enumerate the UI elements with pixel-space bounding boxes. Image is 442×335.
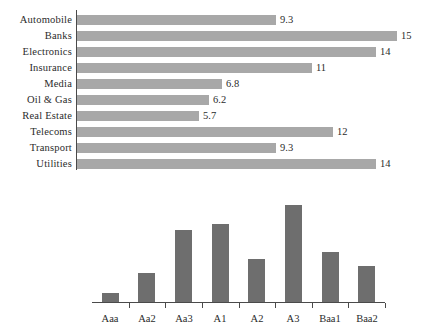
horizontal-bar-category-label: Oil & Gas (0, 92, 72, 108)
horizontal-bar-category-label: Banks (0, 28, 72, 44)
horizontal-bar-value-label: 5.7 (203, 108, 216, 124)
horizontal-bar-row: Insurance11 (0, 60, 442, 76)
horizontal-bar-value-label: 11 (316, 60, 326, 76)
horizontal-bar-row: Utilities14 (0, 156, 442, 172)
vertical-bar-chart: AaaAa2Aa3A1A2A3Baa1Baa2 (0, 180, 442, 335)
vertical-bar (175, 230, 192, 302)
horizontal-bar-row: Real Estate5.7 (0, 108, 442, 124)
horizontal-bar (77, 95, 209, 105)
horizontal-bar-category-label: Electronics (0, 44, 72, 60)
horizontal-bar (77, 111, 199, 121)
vertical-bar-category-label: A1 (200, 311, 240, 327)
vertical-axis-tick (239, 303, 240, 308)
horizontal-bar-category-label: Real Estate (0, 108, 72, 124)
horizontal-bar-value-label: 14 (380, 44, 391, 60)
horizontal-bar-category-label: Utilities (0, 156, 72, 172)
vertical-bar (248, 259, 265, 302)
vertical-axis-tick (275, 303, 276, 308)
horizontal-bar (77, 159, 376, 169)
vertical-bar-category-label: A3 (273, 311, 313, 327)
horizontal-bar (77, 31, 397, 41)
vertical-axis-tick (165, 303, 166, 308)
horizontal-bar-value-label: 9.3 (280, 12, 293, 28)
vertical-axis-tick (202, 303, 203, 308)
horizontal-bar-row: Transport9.3 (0, 140, 442, 156)
horizontal-bar (77, 15, 276, 25)
vertical-bar (285, 205, 302, 302)
horizontal-bar-category-label: Transport (0, 140, 72, 156)
horizontal-bar-value-label: 15 (401, 28, 412, 44)
vertical-axis-tick (385, 303, 386, 308)
horizontal-bar-row: Automobile9.3 (0, 12, 442, 28)
horizontal-bar (77, 143, 276, 153)
horizontal-bar-value-label: 6.8 (226, 76, 239, 92)
horizontal-bar-row: Electronics14 (0, 44, 442, 60)
horizontal-bar-category-label: Telecoms (0, 124, 72, 140)
horizontal-bar-row: Banks15 (0, 28, 442, 44)
horizontal-bar-chart: Automobile9.3Banks15Electronics14Insuran… (0, 0, 442, 180)
vertical-bar (102, 293, 119, 302)
horizontal-bar-row: Oil & Gas6.2 (0, 92, 442, 108)
horizontal-bar (77, 79, 222, 89)
horizontal-bar-category-label: Insurance (0, 60, 72, 76)
horizontal-bar-value-label: 9.3 (280, 140, 293, 156)
horizontal-bar-category-label: Media (0, 76, 72, 92)
horizontal-bar (77, 63, 312, 73)
horizontal-bar-value-label: 12 (337, 124, 348, 140)
horizontal-bar-row: Telecoms12 (0, 124, 442, 140)
vertical-bar (358, 266, 375, 302)
horizontal-bar-value-label: 6.2 (213, 92, 226, 108)
vertical-axis-tick (129, 303, 130, 308)
horizontal-bar (77, 127, 333, 137)
vertical-bar-category-label: Baa1 (310, 311, 350, 327)
vertical-axis-tick (348, 303, 349, 308)
figure-two-bar-charts: Automobile9.3Banks15Electronics14Insuran… (0, 0, 442, 335)
vertical-axis-tick (312, 303, 313, 308)
vertical-bar (212, 224, 229, 302)
vertical-bar (138, 273, 155, 302)
horizontal-bar-value-label: 14 (380, 156, 391, 172)
horizontal-bar-row: Media6.8 (0, 76, 442, 92)
vertical-bar (322, 252, 339, 302)
vertical-bar-category-label: Baa2 (347, 311, 387, 327)
vertical-bar-category-label: A2 (237, 311, 277, 327)
vertical-bar-category-label: Aaa (90, 311, 130, 327)
vertical-bar-category-label: Aa2 (127, 311, 167, 327)
vertical-bar-category-label: Aa3 (164, 311, 204, 327)
horizontal-bar-category-label: Automobile (0, 12, 72, 28)
horizontal-bar (77, 47, 376, 57)
